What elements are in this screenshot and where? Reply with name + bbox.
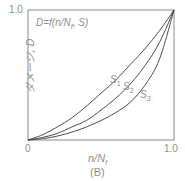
figure-caption: (B): [90, 166, 105, 178]
formula-annotation: D=f(n/Nf, S): [36, 17, 88, 30]
x-tick-0: 0: [25, 143, 31, 154]
y-tick-1: 1.0: [9, 4, 23, 15]
series-label-s2: S2: [123, 81, 134, 94]
y-axis-label: ダメージ, D: [22, 38, 37, 92]
x-axis-label: n/Nf: [88, 152, 107, 166]
series-label-s3: S3: [140, 89, 151, 102]
x-tick-1: 1.0: [164, 143, 178, 154]
series-label-s1: S1: [110, 74, 121, 87]
